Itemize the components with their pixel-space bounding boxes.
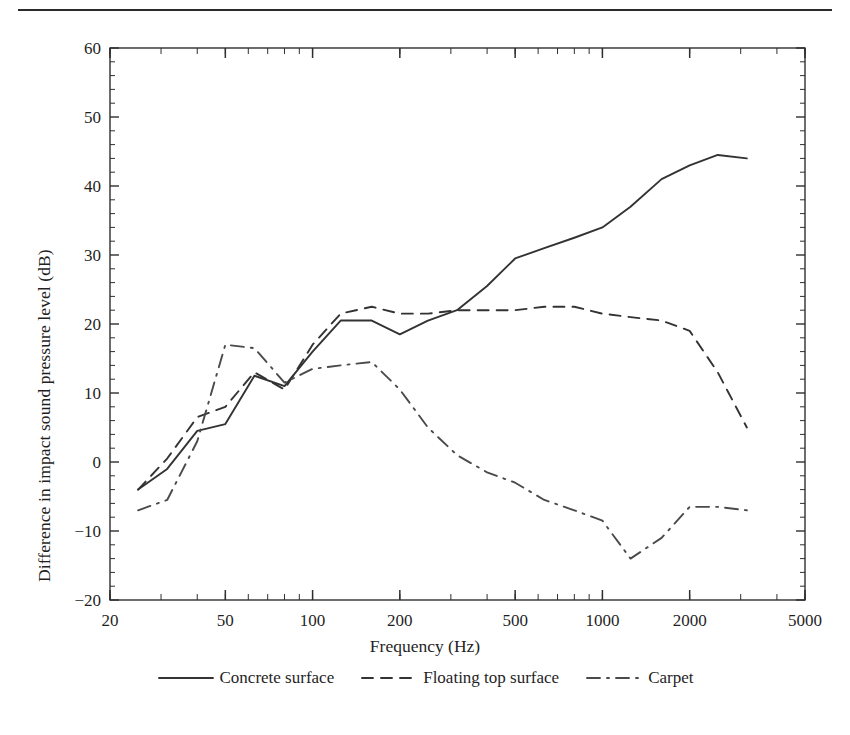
legend-item: Floating top surface bbox=[360, 668, 559, 688]
legend-key-solid bbox=[157, 671, 215, 685]
legend-key-dashdot bbox=[585, 671, 643, 685]
svg-text:20: 20 bbox=[102, 611, 119, 630]
svg-text:40: 40 bbox=[84, 177, 101, 196]
series-line bbox=[138, 345, 747, 559]
legend-item: Concrete surface bbox=[157, 668, 335, 688]
svg-text:2000: 2000 bbox=[673, 611, 707, 630]
series-lines bbox=[138, 155, 747, 559]
y-axis-ticks: −20−100102030405060 bbox=[74, 39, 805, 610]
svg-text:1000: 1000 bbox=[585, 611, 619, 630]
svg-text:500: 500 bbox=[502, 611, 528, 630]
series-line bbox=[138, 155, 747, 490]
legend-label: Carpet bbox=[648, 668, 693, 688]
chart-svg: −20−100102030405060 20501002005001000200… bbox=[0, 0, 850, 735]
x-axis-label: Frequency (Hz) bbox=[0, 636, 850, 657]
series-line bbox=[138, 307, 747, 490]
legend-label: Floating top surface bbox=[423, 668, 559, 688]
svg-text:60: 60 bbox=[84, 39, 101, 58]
svg-text:−20: −20 bbox=[74, 591, 101, 610]
x-axis-ticks: 2050100200500100020005000 bbox=[102, 48, 823, 630]
svg-text:50: 50 bbox=[84, 108, 101, 127]
svg-text:10: 10 bbox=[84, 384, 101, 403]
svg-text:200: 200 bbox=[387, 611, 413, 630]
legend-item: Carpet bbox=[585, 668, 693, 688]
figure-chart: −20−100102030405060 20501002005001000200… bbox=[0, 0, 850, 735]
svg-text:0: 0 bbox=[93, 453, 102, 472]
svg-text:20: 20 bbox=[84, 315, 101, 334]
y-axis-label-wrap: Difference in impact sound pressure leve… bbox=[0, 0, 40, 620]
svg-text:−10: −10 bbox=[74, 522, 101, 541]
svg-text:30: 30 bbox=[84, 246, 101, 265]
axes-frame bbox=[110, 48, 805, 600]
chart-legend: Concrete surfaceFloating top surfaceCarp… bbox=[0, 668, 850, 688]
legend-key-dashed bbox=[360, 671, 418, 685]
svg-text:5000: 5000 bbox=[788, 611, 822, 630]
svg-text:100: 100 bbox=[300, 611, 326, 630]
legend-label: Concrete surface bbox=[220, 668, 335, 688]
y-axis-label: Difference in impact sound pressure leve… bbox=[34, 249, 55, 582]
svg-text:50: 50 bbox=[217, 611, 234, 630]
